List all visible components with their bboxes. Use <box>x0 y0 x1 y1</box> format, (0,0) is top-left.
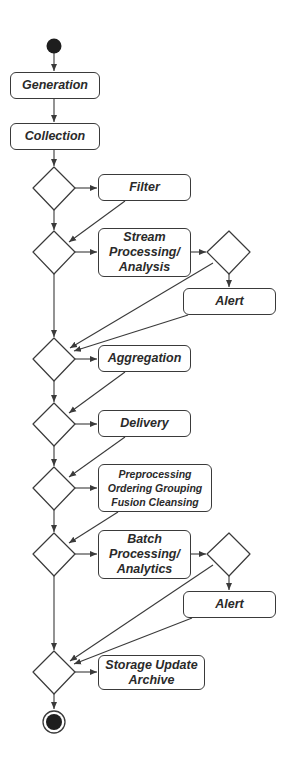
action-label: Batch Processing/ Analytics <box>109 532 180 577</box>
action-alert-1: Alert <box>183 288 276 315</box>
edge-aggregation-decision4 <box>69 372 125 413</box>
activity-diagram <box>0 0 294 766</box>
action-generation: Generation <box>10 72 100 99</box>
decision-node-5 <box>33 467 75 510</box>
decision-node-2 <box>33 231 75 274</box>
action-label: Preprocessing Ordering Grouping Fusion C… <box>108 467 203 509</box>
decision-node-7 <box>33 651 75 694</box>
initial-node <box>47 39 62 54</box>
decision-node-6 <box>33 533 75 576</box>
decision-node-1 <box>33 167 75 210</box>
action-filter: Filter <box>98 174 191 201</box>
decision-node-4 <box>33 403 75 446</box>
action-label: Stream Processing/ Analysis <box>109 230 180 275</box>
final-node <box>43 711 65 733</box>
action-aggregation: Aggregation <box>98 345 191 372</box>
action-label: Filter <box>129 180 160 195</box>
decision-node-batch-alert <box>207 533 250 576</box>
action-storage-update-archive: Storage Update Archive <box>98 655 205 690</box>
decision-node-3 <box>33 338 75 381</box>
action-label: Collection <box>25 129 85 144</box>
action-label: Storage Update Archive <box>105 658 197 688</box>
action-stream-processing: Stream Processing/ Analysis <box>98 228 191 277</box>
action-delivery: Delivery <box>98 410 191 437</box>
action-alert-2: Alert <box>183 591 276 618</box>
action-preprocessing: Preprocessing Ordering Grouping Fusion C… <box>98 464 212 512</box>
action-label: Generation <box>22 78 88 93</box>
action-batch-processing: Batch Processing/ Analytics <box>98 530 191 579</box>
action-label: Alert <box>215 294 243 309</box>
decision-node-stream-alert <box>207 231 250 274</box>
action-label: Aggregation <box>108 351 182 366</box>
action-collection: Collection <box>10 123 100 150</box>
action-label: Alert <box>215 597 243 612</box>
action-label: Delivery <box>120 416 169 431</box>
